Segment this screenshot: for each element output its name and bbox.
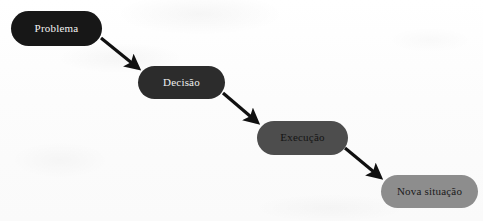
node-decisao-label: Decisão — [163, 77, 200, 89]
arrow-problema-decisao — [101, 38, 138, 68]
node-decisao[interactable]: Decisão — [138, 66, 225, 99]
node-nova-situacao-label: Nova situação — [397, 186, 462, 198]
arrow-decisao-execucao — [223, 93, 257, 122]
node-nova-situacao[interactable]: Nova situação — [381, 175, 478, 208]
diagram-canvas: Problema Decisão Execução Nova situação — [0, 0, 483, 221]
node-execucao[interactable]: Execução — [257, 121, 348, 155]
node-execucao-label: Execução — [280, 132, 324, 144]
node-problema-label: Problema — [35, 23, 79, 35]
node-problema[interactable]: Problema — [11, 11, 102, 46]
arrow-execucao-nova-situacao — [345, 148, 380, 177]
